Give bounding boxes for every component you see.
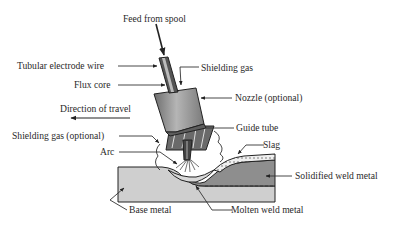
label-slag: Slag [263, 139, 280, 150]
label-guide-tube: Guide tube [236, 122, 278, 133]
label-direction-of-travel: Direction of travel [60, 103, 131, 114]
arc [176, 160, 199, 172]
label-feed-from-spool: Feed from spool [123, 13, 186, 24]
feed-arrow [156, 24, 164, 55]
label-solidified-weld-metal: Solidified weld metal [295, 170, 378, 181]
fcaw-diagram: Feed from spool Tubular electrode wire S… [0, 0, 399, 228]
label-molten-weld-metal: Molten weld metal [231, 204, 304, 215]
label-tubular-electrode-wire: Tubular electrode wire [17, 60, 104, 71]
label-shielding-gas: Shielding gas [201, 62, 253, 73]
nozzle [154, 88, 206, 136]
label-shielding-gas-optional: Shielding gas (optional) [12, 130, 104, 142]
label-arc: Arc [100, 146, 114, 157]
electrode-tip [183, 140, 192, 160]
label-flux-core: Flux core [74, 79, 111, 90]
tubular-electrode-wire [159, 57, 178, 93]
label-nozzle: Nozzle (optional) [235, 92, 302, 104]
label-base-metal: Base metal [129, 204, 172, 215]
